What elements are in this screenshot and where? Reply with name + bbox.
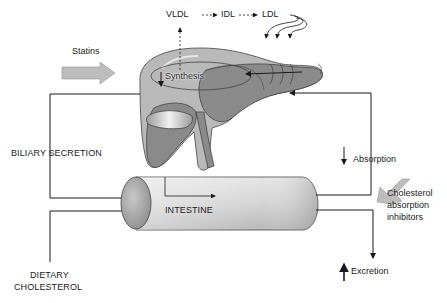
ldl-uptake-arrow-2 [277, 16, 303, 38]
dietary-cholesterol-line [50, 211, 136, 262]
idl-label: IDL [221, 9, 235, 20]
synthesis-label: Synthesis [165, 71, 204, 82]
gallbladder [147, 111, 193, 129]
dietary-label-line2: CHOLESTEROL [14, 282, 82, 293]
excretion-line [316, 210, 373, 258]
ldl-label: LDL [262, 9, 279, 20]
intestine [121, 177, 318, 230]
inhibitors-label-line3: inhibitors [387, 212, 423, 223]
inhibitors-label-line2: absorption [387, 200, 429, 211]
statins-arrow-icon [62, 62, 115, 84]
intestine-end [121, 177, 151, 229]
vldl-label: VLDL [166, 9, 189, 20]
dietary-label-line1: DIETARY [30, 270, 69, 281]
biliary-secretion-label: BILIARY SECRETION [11, 148, 102, 159]
statins-label: Statins [72, 46, 100, 57]
ldl-uptake-arrow-3 [290, 18, 307, 38]
inhibitors-label-line1: Cholesterol [387, 188, 433, 199]
excretion-label: Excretion [351, 266, 389, 277]
intestine-label: INTESTINE [165, 205, 213, 216]
liver [140, 48, 323, 170]
absorption-label: Absorption [353, 154, 396, 165]
